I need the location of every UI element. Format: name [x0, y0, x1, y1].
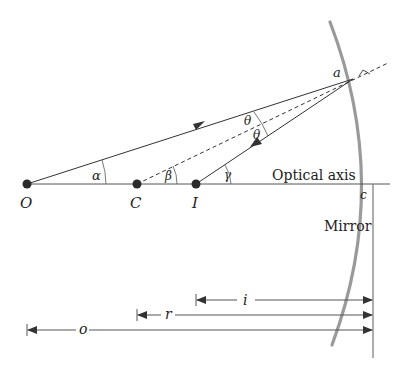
- image-point: [192, 180, 201, 189]
- label-vertex: c: [360, 188, 367, 202]
- beta-arc: [173, 166, 177, 184]
- label-center: C: [130, 194, 142, 212]
- label-optical-axis: Optical axis: [272, 167, 356, 183]
- label-alpha: α: [92, 168, 101, 183]
- label-gamma: γ: [224, 168, 232, 182]
- label-radius: r: [165, 306, 173, 322]
- mirror-ray-diagram: O C I a c α β γ θ θ Optical axis Mirror …: [0, 0, 406, 375]
- label-reflection-point: a: [333, 65, 341, 80]
- label-image-distance: i: [243, 292, 247, 308]
- label-object-distance: o: [79, 321, 87, 337]
- label-image: I: [191, 194, 199, 212]
- center-point: [133, 180, 142, 189]
- object-point: [23, 180, 32, 189]
- label-mirror: Mirror: [324, 218, 372, 234]
- label-theta-incident: θ: [244, 114, 252, 128]
- right-angle-marker: [359, 70, 370, 76]
- label-theta-reflected: θ: [253, 128, 261, 142]
- label-beta: β: [164, 169, 172, 183]
- alpha-arc: [102, 160, 106, 184]
- label-object: O: [20, 194, 32, 212]
